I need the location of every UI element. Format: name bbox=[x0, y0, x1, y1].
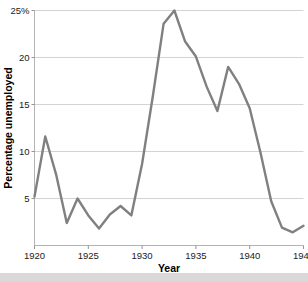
data-series-group bbox=[35, 11, 304, 233]
axis-spines-group bbox=[35, 11, 304, 246]
x-axis-title: Year bbox=[158, 262, 180, 274]
y-tick-label-25: 25% bbox=[10, 5, 30, 16]
x-tick-label-1930: 1930 bbox=[132, 250, 153, 261]
x-tick-label-1925: 1925 bbox=[78, 250, 99, 261]
y-tick-label-10: 10 bbox=[19, 146, 30, 157]
y-axis-title: Percentage unemployed bbox=[2, 67, 14, 188]
chart-figure: 510152025% 192019251930193519401945 Perc… bbox=[0, 0, 308, 282]
gridlines-group bbox=[35, 11, 304, 199]
y-tick-label-5: 5 bbox=[24, 193, 29, 204]
x-tick-label-1945: 1945 bbox=[293, 250, 308, 261]
x-tick-labels-group: 192019251930193519401945 bbox=[24, 250, 308, 261]
x-tick-label-1940: 1940 bbox=[239, 250, 260, 261]
unemployment-line bbox=[35, 11, 304, 233]
x-tick-label-1935: 1935 bbox=[185, 250, 206, 261]
y-tick-label-20: 20 bbox=[19, 52, 30, 63]
unemployment-line-chart: 510152025% 192019251930193519401945 Perc… bbox=[0, 0, 308, 282]
x-tick-label-1920: 1920 bbox=[24, 250, 45, 261]
y-tick-label-15: 15 bbox=[19, 99, 30, 110]
footer-bar bbox=[0, 273, 308, 282]
